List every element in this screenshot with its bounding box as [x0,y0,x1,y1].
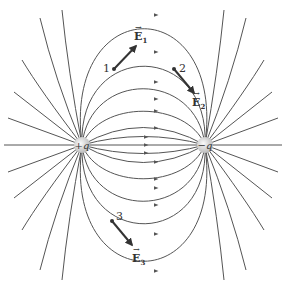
field-vector-e3-label: E3 [132,252,145,267]
charge-negative: −q [197,137,213,153]
point-2: 2 E2 → [172,62,205,111]
field-vector-e1-label: E1 [134,30,147,45]
field-vector-e1 [114,46,136,69]
point-1: 1 E1 → [103,23,147,75]
point-2-label: 2 [179,62,186,75]
field-vector-e2-label: E2 [192,96,205,111]
charge-negative-label: −q [198,140,213,151]
point-1-label: 1 [103,62,110,75]
charge-positive-label: +q [75,140,90,151]
field-vector-e3 [112,221,132,245]
field-lines-outer-negative [205,10,282,280]
dipole-diagram: +q −q 1 E1 → 2 E2 → 3 E3 → [0,0,286,286]
vector-arrow-icon: → [193,89,200,98]
vector-arrow-icon: → [135,23,142,32]
field-lines-connecting [80,15,207,271]
charge-positive: +q [74,137,90,153]
vector-arrow-icon: → [133,245,140,254]
point-3-label: 3 [116,210,123,223]
field-lines-outer-positive [4,10,82,280]
